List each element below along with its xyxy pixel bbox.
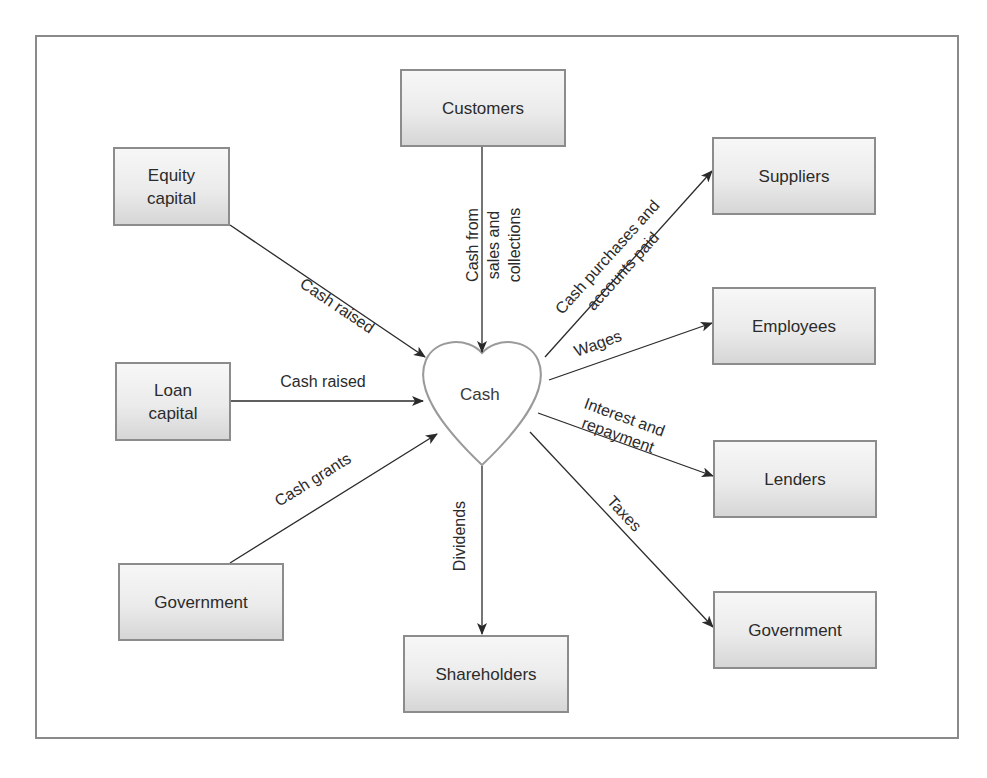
node-employees: Employees (712, 287, 876, 365)
edge-label-dividends: Dividends (450, 491, 470, 581)
node-government-destination-label: Government (748, 619, 842, 642)
arrow-cash-to-government (530, 432, 713, 627)
node-equity-capital: Equity capital (113, 147, 230, 226)
node-government-source: Government (118, 563, 284, 641)
node-customers: Customers (400, 69, 566, 147)
edge-label-customers: Cash from sales and collections (462, 170, 524, 320)
node-shareholders-label: Shareholders (435, 663, 536, 686)
cash-label: Cash (460, 385, 500, 405)
node-shareholders: Shareholders (403, 635, 569, 713)
node-equity-capital-label: Equity capital (147, 164, 196, 210)
arrow-government-to-cash (230, 434, 437, 563)
node-government-destination: Government (713, 591, 877, 669)
node-loan-capital: Loan capital (115, 362, 231, 441)
node-suppliers-label: Suppliers (759, 165, 830, 188)
node-lenders: Lenders (713, 440, 877, 518)
node-suppliers: Suppliers (712, 137, 876, 215)
node-customers-label: Customers (442, 97, 524, 120)
edge-label-loan: Cash raised (268, 372, 378, 392)
node-lenders-label: Lenders (764, 468, 825, 491)
node-employees-label: Employees (752, 315, 836, 338)
node-government-source-label: Government (154, 591, 248, 614)
node-loan-capital-label: Loan capital (148, 379, 197, 425)
